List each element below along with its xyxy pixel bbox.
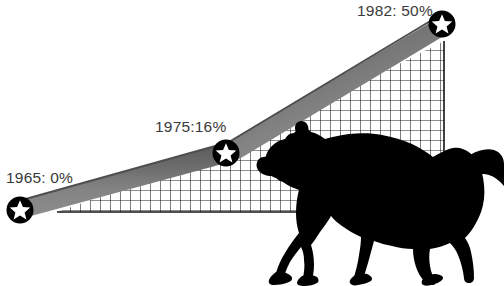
infographic-canvas: 1965: 0% 1975:16% 1982: 50% [0,0,504,286]
cheetah-paw-front-right [297,275,319,286]
data-label-1982: 1982: 50% [357,3,433,19]
cheetah-paw-rear-left [350,274,372,286]
data-label-1975: 1975:16% [155,119,226,135]
infographic-illustration [0,0,504,286]
cheetah-body [265,129,485,285]
cheetah-paw-front-left [269,272,292,285]
data-label-1965: 1965: 0% [6,170,73,186]
data-point-marker-1975[interactable] [213,140,240,167]
data-point-marker-1965[interactable] [7,197,34,224]
